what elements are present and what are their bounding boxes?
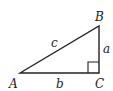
vertex-label-b: B	[94, 10, 104, 24]
triangle-shape	[20, 26, 99, 73]
side-label-a: a	[103, 42, 110, 56]
side-label-b: b	[56, 77, 64, 91]
vertex-label-a: A	[8, 77, 18, 91]
right-angle-marker	[88, 62, 99, 73]
right-triangle-diagram: B A C a b c	[0, 0, 113, 91]
side-label-c: c	[51, 36, 58, 50]
vertex-label-c: C	[95, 77, 104, 91]
